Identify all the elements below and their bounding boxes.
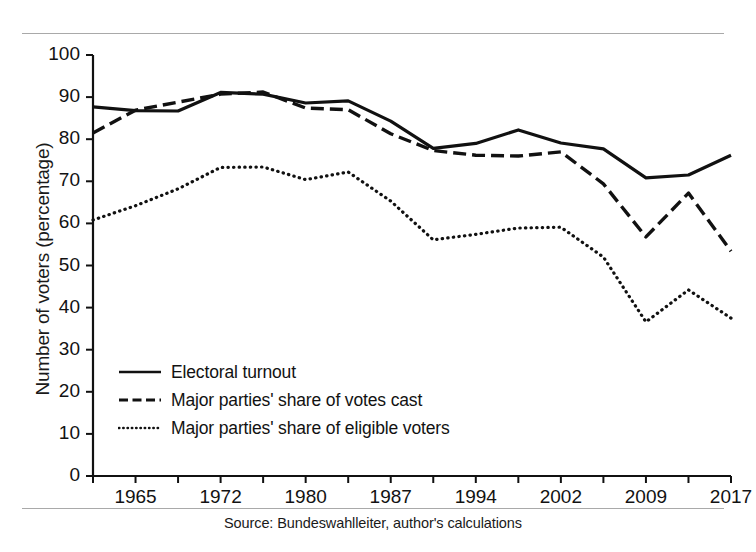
y-axis-tick-label: 10 bbox=[34, 422, 80, 444]
bottom-divider-rule bbox=[22, 508, 724, 509]
x-axis-tick-label: 2017 bbox=[701, 486, 756, 508]
y-axis-tick-label: 60 bbox=[34, 211, 80, 233]
data-series-solid bbox=[93, 92, 731, 177]
y-axis-tick-label: 40 bbox=[34, 296, 80, 318]
legend-item-major-parties-eligible-voters: Major parties' share of eligible voters bbox=[118, 414, 518, 442]
legend-label-major-parties-eligible-voters: Major parties' share of eligible voters bbox=[171, 418, 450, 439]
x-axis-tick-label: 1965 bbox=[106, 486, 166, 508]
y-axis-tick-label: 70 bbox=[34, 169, 80, 191]
x-axis-tick-label: 1994 bbox=[446, 486, 506, 508]
legend-label-major-parties-votes-cast: Major parties' share of votes cast bbox=[171, 390, 422, 411]
data-series-dotted bbox=[93, 167, 731, 322]
x-axis-tick-label: 1980 bbox=[276, 486, 336, 508]
chart-legend: Electoral turnout Major parties' share o… bbox=[118, 358, 518, 442]
x-axis-tick-label: 1972 bbox=[191, 486, 251, 508]
y-axis-tick-label: 50 bbox=[34, 254, 80, 276]
y-axis-tick-label: 30 bbox=[34, 338, 80, 360]
y-axis-tick-label: 0 bbox=[34, 464, 80, 486]
legend-swatch-dashed-icon bbox=[118, 393, 162, 407]
x-axis-tick-label: 2009 bbox=[616, 486, 676, 508]
source-caption: Source: Bundeswahlleiter, author's calcu… bbox=[0, 515, 746, 531]
y-axis-tick-label: 20 bbox=[34, 380, 80, 402]
legend-item-major-parties-votes-cast: Major parties' share of votes cast bbox=[118, 386, 518, 414]
x-axis-tick-label: 2002 bbox=[531, 486, 591, 508]
legend-swatch-dotted-icon bbox=[118, 421, 162, 435]
legend-item-electoral-turnout: Electoral turnout bbox=[118, 358, 518, 386]
x-axis-tick-label: 1987 bbox=[361, 486, 421, 508]
y-axis-tick-label: 90 bbox=[34, 85, 80, 107]
legend-label-electoral-turnout: Electoral turnout bbox=[171, 362, 296, 383]
y-axis-tick-label: 80 bbox=[34, 127, 80, 149]
y-axis-tick-label: 100 bbox=[34, 43, 80, 65]
legend-swatch-solid-icon bbox=[118, 365, 162, 379]
data-series-group bbox=[93, 92, 731, 322]
